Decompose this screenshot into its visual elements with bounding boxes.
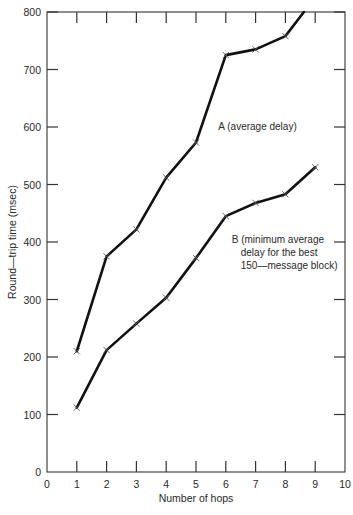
data-point-marker bbox=[133, 321, 139, 327]
x-tick-label: 7 bbox=[253, 478, 259, 490]
x-tick-label: 1 bbox=[74, 478, 80, 490]
x-axis-title: Number of hops bbox=[159, 492, 234, 504]
y-tick-label: 700 bbox=[23, 64, 41, 76]
annotation-line: delay for the best bbox=[241, 247, 318, 258]
y-tick-label: 200 bbox=[23, 351, 41, 363]
y-tick-label: 0 bbox=[35, 466, 41, 478]
annotation-line: B (minimum average bbox=[232, 234, 325, 245]
x-tick-label: 9 bbox=[312, 478, 318, 490]
x-tick-label: 10 bbox=[339, 478, 351, 490]
data-point-marker bbox=[312, 164, 318, 170]
y-tick-label: 600 bbox=[23, 121, 41, 133]
label-b: B (minimum averagedelay for the best150—… bbox=[232, 234, 338, 271]
x-tick-label: 2 bbox=[104, 478, 110, 490]
annotation-line: A (average delay) bbox=[218, 121, 296, 132]
y-axis-tick-labels: 0100200300400500600700800 bbox=[23, 6, 41, 478]
y-tick-label: 800 bbox=[23, 6, 41, 18]
y-tick-label: 500 bbox=[23, 179, 41, 191]
x-axis-ticks-top bbox=[77, 12, 315, 23]
round-trip-time-line-chart: 0100200300400500600700800 012345678910 R… bbox=[0, 0, 353, 515]
data-series-layer bbox=[74, 12, 319, 411]
x-tick-label: 0 bbox=[44, 478, 50, 490]
y-axis-title: Round—trip time (msec) bbox=[6, 185, 18, 299]
series-line-A bbox=[77, 12, 304, 351]
label-a: A (average delay) bbox=[218, 121, 296, 132]
series-line-B bbox=[77, 167, 315, 407]
figure-container: 0100200300400500600700800 012345678910 R… bbox=[0, 0, 353, 515]
y-axis-ticks-right bbox=[334, 12, 345, 415]
y-tick-label: 400 bbox=[23, 236, 41, 248]
y-tick-label: 100 bbox=[23, 409, 41, 421]
y-tick-label: 300 bbox=[23, 294, 41, 306]
x-tick-label: 8 bbox=[282, 478, 288, 490]
x-tick-label: 3 bbox=[133, 478, 139, 490]
series-A bbox=[74, 12, 304, 354]
x-tick-label: 5 bbox=[193, 478, 199, 490]
x-tick-label: 4 bbox=[163, 478, 169, 490]
data-point-marker bbox=[163, 295, 169, 301]
x-tick-label: 6 bbox=[223, 478, 229, 490]
series-B bbox=[74, 164, 319, 411]
x-axis-ticks-bottom bbox=[77, 461, 315, 472]
y-axis-ticks-left bbox=[47, 12, 58, 415]
x-axis-tick-labels: 012345678910 bbox=[44, 478, 351, 490]
annotation-line: 150—message block) bbox=[241, 260, 338, 271]
